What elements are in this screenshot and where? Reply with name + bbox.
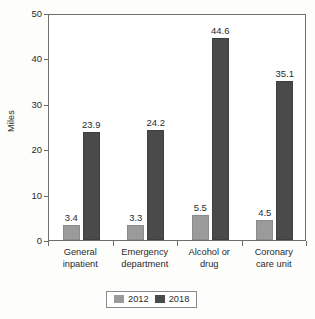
bar-group: 3.324.2 — [114, 15, 179, 240]
x-axis-category-label: Coronarycare unit — [242, 247, 307, 270]
y-axis-tick-label: 10 — [20, 191, 42, 200]
bar-rect[interactable] — [212, 38, 229, 240]
legend-swatch — [114, 295, 124, 303]
x-axis-tick-mark — [306, 241, 307, 246]
bar-series-2018[interactable]: 24.2 — [147, 13, 164, 240]
y-axis-tick-label: 40 — [20, 54, 42, 63]
legend-item-2012[interactable]: 2012 — [114, 294, 149, 304]
x-axis-category-label-line: Emergency — [113, 247, 178, 259]
y-axis-tick-label: 20 — [20, 145, 42, 154]
bar-group: 4.535.1 — [243, 15, 308, 240]
bar-value-label: 23.9 — [82, 120, 101, 130]
x-axis-category-label-line: drug — [177, 259, 242, 271]
bar-rect[interactable] — [127, 225, 144, 240]
bar-chart-figure: Miles 01020304050 3.423.93.324.25.544.64… — [0, 0, 315, 319]
chart-legend: 20122018 — [106, 291, 197, 308]
bar-rect[interactable] — [83, 132, 100, 241]
legend-label: 2012 — [128, 294, 149, 304]
bar-value-label: 24.2 — [147, 118, 166, 128]
bar-value-label: 3.4 — [65, 213, 78, 223]
bar-rect[interactable] — [192, 215, 209, 240]
bar-group: 5.544.6 — [178, 15, 243, 240]
x-axis-category-label-line: department — [113, 259, 178, 271]
x-axis-category-label-line: care unit — [242, 259, 307, 271]
bar-rect[interactable] — [147, 130, 164, 240]
plot-frame: 3.423.93.324.25.544.64.535.1 — [48, 14, 306, 241]
x-axis-category-label: Generalinpatient — [48, 247, 113, 270]
bar-series-2012[interactable]: 4.5 — [256, 13, 273, 240]
bar-value-label: 44.6 — [211, 26, 230, 36]
bar-series-2018[interactable]: 44.6 — [212, 13, 229, 240]
y-axis-title: Miles — [6, 86, 16, 156]
x-axis-category-label-line: Alcohol or — [177, 247, 242, 259]
bar-rect[interactable] — [256, 220, 273, 240]
legend-item-2018[interactable]: 2018 — [155, 294, 190, 304]
x-axis-category-label: Alcohol ordrug — [177, 247, 242, 270]
x-axis-category-label-line: General — [48, 247, 113, 259]
bar-series-2018[interactable]: 23.9 — [83, 13, 100, 240]
bar-series-2012[interactable]: 3.4 — [63, 13, 80, 240]
y-axis-tick-labels: 01020304050 — [18, 0, 42, 319]
x-axis-tick-mark — [113, 241, 114, 246]
bar-value-label: 4.5 — [258, 208, 271, 218]
x-axis-category-label-line: Coronary — [242, 247, 307, 259]
y-axis-tick-label: 0 — [20, 236, 42, 245]
bar-series-2012[interactable]: 5.5 — [192, 13, 209, 240]
bar-rect[interactable] — [63, 225, 80, 240]
legend-swatch — [155, 295, 165, 303]
bar-value-label: 35.1 — [276, 69, 295, 79]
x-axis-category-label: Emergencydepartment — [113, 247, 178, 270]
x-axis-category-label-line: inpatient — [48, 259, 113, 271]
bar-value-label: 3.3 — [129, 213, 142, 223]
y-axis-tick-label: 50 — [20, 9, 42, 18]
plot-area: 3.423.93.324.25.544.64.535.1 — [49, 15, 305, 240]
legend-label: 2018 — [169, 294, 190, 304]
bar-series-2012[interactable]: 3.3 — [127, 13, 144, 240]
bar-value-label: 5.5 — [194, 203, 207, 213]
x-axis-tick-mark — [177, 241, 178, 246]
bar-rect[interactable] — [276, 81, 293, 240]
y-axis-tick-label: 30 — [20, 100, 42, 109]
bar-group: 3.423.9 — [49, 15, 114, 240]
x-axis-tick-mark — [48, 241, 49, 246]
x-axis-tick-mark — [242, 241, 243, 246]
bar-series-2018[interactable]: 35.1 — [276, 13, 293, 240]
